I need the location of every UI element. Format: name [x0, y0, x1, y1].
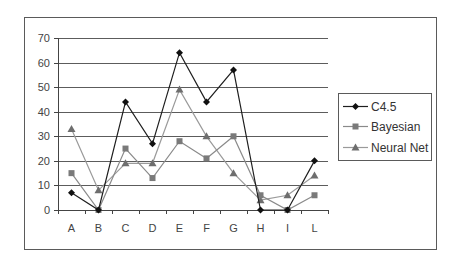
- legend: C4.5BayesianNeural Net: [339, 94, 432, 161]
- x-tick-label: D: [149, 222, 157, 234]
- square-marker-icon: [312, 192, 318, 198]
- y-tick-label: 60: [38, 57, 50, 69]
- square-marker-icon: [123, 146, 129, 152]
- y-tick-label: 0: [44, 204, 50, 216]
- x-tick-label: H: [257, 222, 265, 234]
- y-tick-label: 40: [38, 106, 50, 118]
- y-tick-label: 10: [38, 179, 50, 191]
- x-tick-label: A: [68, 222, 76, 234]
- x-tick-label: E: [176, 222, 183, 234]
- y-tick-label: 70: [38, 32, 50, 44]
- square-marker-icon: [231, 133, 237, 139]
- x-tick-label: L: [311, 222, 317, 234]
- square-marker-icon: [69, 170, 75, 176]
- line-chart: 010203040506070 ABCDEFGHIL C4.5BayesianN…: [0, 0, 458, 267]
- x-tick-label: B: [95, 222, 102, 234]
- y-tick-label: 30: [38, 130, 50, 142]
- legend-label: Neural Net: [371, 141, 429, 155]
- legend-label: Bayesian: [371, 120, 420, 134]
- y-tick-label: 50: [38, 81, 50, 93]
- x-tick-label: G: [229, 222, 238, 234]
- square-marker-icon: [204, 155, 210, 161]
- square-marker-icon: [150, 175, 156, 181]
- square-marker-icon: [353, 124, 359, 130]
- x-tick-label: F: [203, 222, 210, 234]
- legend-label: C4.5: [371, 100, 397, 114]
- x-tick-label: I: [286, 222, 289, 234]
- square-marker-icon: [177, 138, 183, 144]
- x-tick-label: C: [122, 222, 130, 234]
- y-tick-label: 20: [38, 155, 50, 167]
